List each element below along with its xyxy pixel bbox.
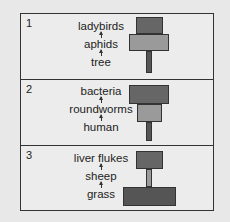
pyramid-block-middle [137,104,162,122]
pyramid-block-bottom [146,122,152,141]
panel-3: 3 liver flukes sheep grass [21,145,213,211]
panel-1: 1 ladybirds aphids tree [21,14,213,78]
food-chain-diagram: 1 ladybirds aphids tree 2 bacteria round… [20,13,214,211]
pyramid-block-bottom [123,187,176,206]
panel-number: 1 [26,17,32,29]
panel-number: 2 [26,83,32,95]
arrow-up-icon [61,115,141,121]
organism-bottom: human [61,121,141,133]
organism-bottom: tree [61,56,141,68]
pyramid-block-middle [129,34,169,51]
pyramid-block-top [136,17,163,34]
panel-2: 2 bacteria roundworms human [21,79,213,145]
arrow-up-icon [61,164,141,170]
panel-number: 3 [26,149,32,161]
pyramid-block-middle [146,169,152,187]
pyramid-block-top [136,151,163,169]
pyramid-block-bottom [146,51,152,73]
pyramid-block-top [129,85,169,104]
